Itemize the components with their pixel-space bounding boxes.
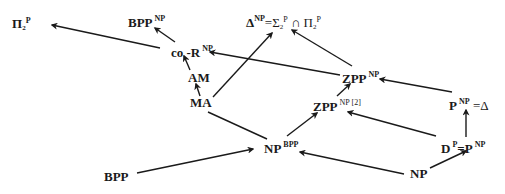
node-np-bpp-sup: BPP bbox=[283, 140, 298, 149]
node-delta-np-sub3: 2 bbox=[313, 23, 317, 31]
node-cor-np: co -RNP bbox=[171, 42, 213, 60]
node-np: NP bbox=[410, 167, 427, 181]
node-delta-np-sup: NP bbox=[254, 14, 265, 23]
edge-dp-to-zppnp2 bbox=[348, 112, 436, 136]
node-dp-pnp: =P bbox=[457, 141, 472, 156]
node-zpp-np2: ZPPNP [2] bbox=[313, 96, 361, 114]
node-dp-sup2: NP bbox=[475, 140, 486, 149]
complexity-class-diagram: Π2P BPPNP ΔNP=Σ2P ∩ Π2P co -RNP AM MA ZP… bbox=[0, 0, 505, 194]
node-bpp: BPP bbox=[104, 170, 129, 184]
node-ma-base: MA bbox=[190, 95, 212, 110]
node-np-base: NP bbox=[410, 166, 427, 181]
edge-ma-to-deltanp bbox=[213, 33, 272, 97]
node-p-np-base: P bbox=[449, 98, 457, 113]
node-np-bpp-base: NP bbox=[264, 141, 281, 156]
node-pi2p-base: Π bbox=[12, 16, 22, 31]
node-bpp-np: BPPNP bbox=[128, 12, 165, 30]
node-pi2p-sub: 2 bbox=[22, 24, 26, 32]
node-cor-np-base: co -R bbox=[171, 45, 200, 60]
node-p-np: PNP =Δ bbox=[449, 95, 489, 113]
node-delta-np-base: Δ bbox=[246, 15, 254, 30]
edge-bpp-to-npbpp bbox=[137, 149, 253, 173]
node-delta-np: ΔNP=Σ2P ∩ Π2P bbox=[246, 12, 321, 34]
node-bpp-np-base: BPP bbox=[128, 15, 153, 30]
node-am-base: AM bbox=[188, 70, 210, 85]
node-zpp-np-base: ZPP bbox=[342, 71, 367, 86]
node-am: AM bbox=[188, 71, 210, 85]
node-dp-base: D bbox=[441, 141, 450, 156]
edge-ma-npbpp bbox=[208, 112, 267, 139]
node-pi2p: Π2P bbox=[12, 14, 31, 35]
node-ma: MA bbox=[190, 96, 212, 110]
node-cor-np-sup: NP bbox=[202, 44, 213, 53]
node-dp: DP=PNP bbox=[441, 138, 485, 156]
node-p-np-delta: =Δ bbox=[470, 98, 489, 113]
node-np-bpp: NPBPP bbox=[264, 138, 298, 156]
node-bpp-base: BPP bbox=[104, 169, 129, 184]
node-delta-np-sigma: =Σ bbox=[265, 15, 280, 30]
node-delta-np-sup3: P bbox=[316, 15, 320, 24]
edge-zppnp-to-deltanp bbox=[292, 30, 352, 66]
edge-pnp-to-zppnp bbox=[380, 79, 452, 92]
edge-npbpp-to-zppnp2 bbox=[287, 113, 317, 136]
node-pi2p-sup: P bbox=[26, 16, 31, 25]
edge-cor-to-bppnp bbox=[155, 28, 175, 42]
node-delta-np-cap-pi: ∩ Π bbox=[288, 15, 313, 30]
edge-zppnp-to-cor bbox=[210, 52, 340, 75]
node-zpp-np2-sup: NP [2] bbox=[340, 98, 361, 107]
edge-np-to-npbpp bbox=[300, 152, 404, 174]
node-zpp-np-sup: NP bbox=[369, 70, 380, 79]
node-zpp-np: ZPPNP bbox=[342, 68, 379, 86]
node-delta-np-sub2: 2 bbox=[280, 23, 284, 31]
node-zpp-np2-base: ZPP bbox=[313, 99, 338, 114]
node-bpp-np-sup: NP bbox=[155, 14, 166, 23]
node-p-np-sup: NP bbox=[459, 97, 470, 106]
